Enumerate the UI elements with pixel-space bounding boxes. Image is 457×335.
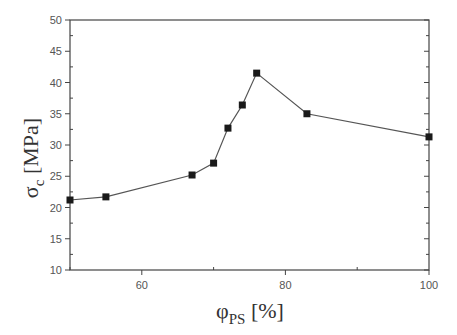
- x-tick-label: 100: [420, 279, 438, 291]
- data-point-marker: [67, 197, 74, 204]
- x-axis-title-sub: PS: [229, 311, 246, 327]
- y-tick-label: 10: [50, 264, 62, 276]
- y-tick-label: 25: [50, 170, 62, 182]
- data-series: [67, 70, 433, 204]
- x-tick-label: 60: [136, 279, 148, 291]
- y-axis-title: σc [MPa]: [18, 118, 47, 198]
- y-tick-label: 35: [50, 108, 62, 120]
- data-point-marker: [239, 102, 246, 109]
- y-tick-label: 50: [50, 14, 62, 26]
- y-axis-title-main: σ: [18, 186, 43, 198]
- y-tick-label: 30: [50, 139, 62, 151]
- x-axis-title-main: φ: [216, 298, 229, 323]
- data-point-marker: [102, 193, 109, 200]
- data-point-marker: [210, 160, 217, 167]
- x-tick-label: 80: [279, 279, 291, 291]
- plot-frame: [70, 20, 429, 270]
- y-axis: 101520253035404550: [50, 14, 429, 276]
- data-point-marker: [189, 172, 196, 179]
- chart: 101520253035404550 6080100 σc [MPa] φPS …: [0, 0, 457, 335]
- y-tick-label: 15: [50, 233, 62, 245]
- series-line: [70, 73, 429, 200]
- x-axis-title-unit: [%]: [245, 298, 283, 323]
- x-axis: 6080100: [70, 267, 438, 291]
- y-axis-title-unit: [MPa]: [18, 118, 43, 180]
- data-point-marker: [224, 125, 231, 132]
- y-tick-label: 20: [50, 202, 62, 214]
- data-point-marker: [253, 70, 260, 77]
- data-point-marker: [303, 110, 310, 117]
- plot-border: [70, 20, 429, 270]
- x-axis-title: φPS [%]: [216, 298, 284, 327]
- y-tick-label: 40: [50, 77, 62, 89]
- y-tick-label: 45: [50, 45, 62, 57]
- data-point-marker: [426, 133, 433, 140]
